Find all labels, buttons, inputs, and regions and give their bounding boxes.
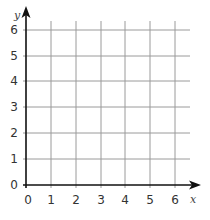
x-tick-labels: 0 1 2 3 4 5 6 <box>24 193 179 207</box>
y-tick-6: 6 <box>10 23 18 37</box>
y-tick-0: 0 <box>10 178 18 192</box>
x-tick-6: 6 <box>171 193 179 207</box>
x-tick-2: 2 <box>72 193 80 207</box>
horizontal-gridlines <box>23 30 190 159</box>
x-tick-3: 3 <box>97 193 105 207</box>
x-tick-4: 4 <box>121 193 129 207</box>
y-tick-3: 3 <box>10 100 18 114</box>
y-tick-1: 1 <box>10 152 18 166</box>
y-tick-2: 2 <box>10 126 18 140</box>
x-tick-5: 5 <box>146 193 154 207</box>
x-tick-1: 1 <box>47 193 55 207</box>
vertical-gridlines <box>51 21 175 188</box>
y-tick-labels: 0 1 2 3 4 5 6 <box>10 23 18 192</box>
y-axis-label: y <box>13 9 21 22</box>
y-tick-5: 5 <box>10 49 18 63</box>
y-tick-4: 4 <box>10 74 18 88</box>
coordinate-grid: 0 1 2 3 4 5 6 0 1 2 3 4 5 6 x y <box>0 0 210 220</box>
x-tick-0: 0 <box>24 193 32 207</box>
x-axis-label: x <box>190 193 197 206</box>
